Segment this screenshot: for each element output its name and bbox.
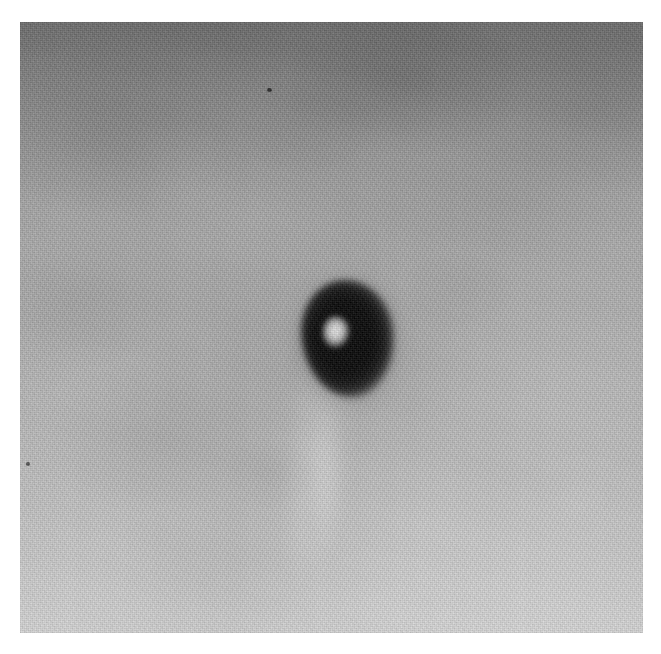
scientific-image-plate[interactable] bbox=[20, 22, 643, 633]
figure-root: Grayscale grainy image with a dark oval … bbox=[0, 0, 661, 654]
dark-speck-left bbox=[26, 462, 30, 466]
dark-speck-upper bbox=[267, 88, 272, 92]
dark-ovoid-lesion[interactable] bbox=[283, 260, 413, 420]
